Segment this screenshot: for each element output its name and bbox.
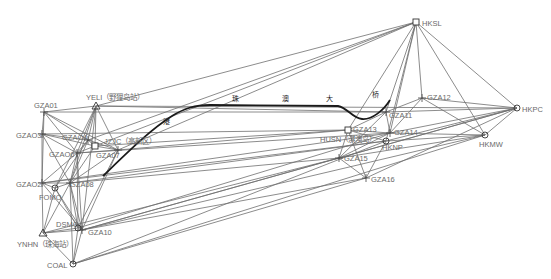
baseline-yeli-fomo [55, 106, 96, 188]
station-label: GZA01 [34, 101, 58, 110]
bridge-label-char: 珠 [232, 94, 239, 103]
baseline-gza15-ynhn [43, 158, 339, 233]
station-label: YNHN（珠海站） [17, 239, 73, 249]
station-label: JZJC（高新区） [104, 136, 157, 146]
station-label: COAL [47, 261, 67, 270]
baseline-dsmo-coal [73, 228, 78, 264]
square-marker-icon [92, 143, 98, 149]
station-label: HKSL [422, 19, 442, 28]
station-label: GZA07 [96, 151, 120, 160]
station-label: YELI（野狸岛站） [86, 92, 144, 102]
station-label: GZAO3 [16, 131, 41, 140]
baseline-yeli-gza10 [82, 106, 96, 230]
station-gza08: GZA08 [66, 179, 94, 189]
station-gza02: GZAO2 [16, 179, 46, 189]
bridge-label-char: 桥 [372, 90, 379, 99]
bridge-label-char: 港 [163, 117, 170, 126]
square-marker-icon [345, 127, 351, 133]
baseline-gza02-ynhn [42, 183, 43, 233]
baseline-hksl-gza12 [416, 22, 422, 98]
station-label: GZA11 [389, 111, 412, 120]
station-label: GZA15 [344, 154, 368, 163]
station-label: GZAO4 [62, 133, 87, 142]
square-marker-icon [413, 19, 419, 25]
station-label: HKPC [522, 105, 543, 114]
station-ynhn: YNHN（珠海站） [17, 229, 73, 249]
baseline-gza16-gza10 [82, 178, 366, 230]
station-label: GZA14 [394, 128, 418, 137]
station-label: DSMO [56, 220, 79, 229]
station-label: HKMW [479, 140, 504, 149]
baseline-hksl-hkmw [416, 22, 485, 135]
baseline-gza12-gza11 [386, 98, 422, 112]
network-diagram: 港珠澳大桥 HKSLGZA12HKPCHKMWGZA11GZA14HKNPGZA… [0, 0, 551, 279]
station-label: HKNP [382, 143, 403, 152]
station-label: GZAO2 [16, 180, 41, 189]
station-label: GZA10 [88, 228, 112, 237]
station-gza13: GZA13 [345, 125, 377, 134]
station-hkmw: HKMW [479, 132, 504, 149]
baseline-gza16-coal [73, 178, 366, 264]
baseline-hksl-gza04 [88, 22, 416, 140]
baseline-gza15-gza10 [82, 158, 339, 230]
station-hkpc: HKPC [514, 105, 543, 114]
station-label: GZA13 [353, 125, 377, 134]
station-label: GZA12 [427, 93, 451, 102]
station-nodes: HKSLGZA12HKPCHKMWGZA11GZA14HKNPGZA13HUSN… [16, 19, 543, 270]
station-gza03: GZAO3 [16, 130, 46, 140]
station-label: GZA16 [371, 175, 395, 184]
baseline-hkmw-gza10 [82, 135, 485, 230]
station-gza12: GZA12 [418, 93, 451, 102]
baseline-hksl-hknp [386, 22, 416, 141]
station-hksl: HKSL [413, 19, 442, 28]
station-label: HUSN（淇澳岛） [320, 134, 376, 144]
station-label: GZA08 [70, 180, 94, 189]
station-husn: HUSN（淇澳岛） [320, 134, 376, 144]
baseline-gza10-coal [73, 230, 82, 264]
station-label: GZAO6 [49, 150, 74, 159]
cross-marker-icon [362, 174, 370, 182]
bridge-label-char: 大 [326, 94, 333, 103]
baseline-hksl-gza11 [386, 22, 416, 112]
bridge-label-char: 澳 [282, 94, 289, 103]
station-label: FOMO [39, 193, 62, 202]
